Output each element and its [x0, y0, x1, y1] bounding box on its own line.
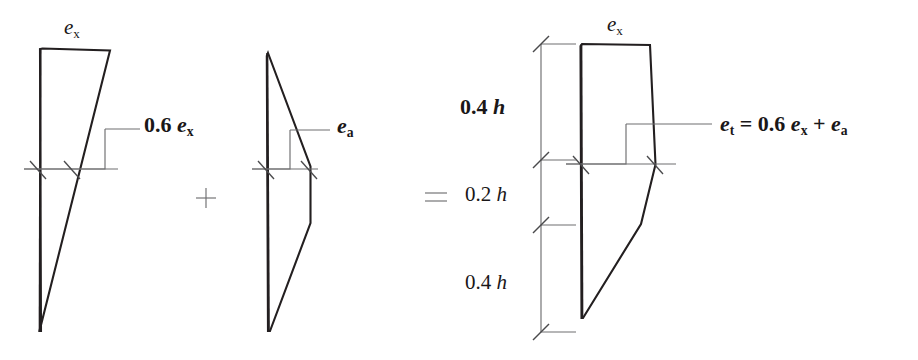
result-lhs-sub: t [730, 123, 735, 138]
dimension-label-2-number: 0.4 [465, 270, 497, 294]
left-value-prefix: 0.6 [144, 112, 177, 137]
dimension-label-1: 0.2 h [465, 184, 507, 205]
dimension-label-1-number: 0.2 [465, 182, 497, 206]
result-equals-text: = 0.6 [734, 111, 791, 136]
dimension-label-0-number: 0.4 [460, 94, 493, 119]
dimension-chain-group [533, 36, 576, 340]
result-term2-sub: a [841, 123, 848, 138]
dimension-label-0: 0.4 h [460, 96, 505, 118]
right-top-label: ex [607, 14, 623, 35]
right-shape-outline [581, 44, 656, 318]
right-result-label: et = 0.6 ex + ea [720, 113, 848, 135]
operator-equals-group [425, 193, 447, 201]
left-vertical-edge [40, 49, 41, 332]
result-plus-text: + [807, 111, 831, 136]
result-term1-symbol: e [791, 111, 801, 136]
result-term2-symbol: e [831, 111, 841, 136]
left-leader-bracket [24, 129, 105, 169]
right-top-label-sub: x [616, 23, 623, 38]
left-value-label: 0.6 ex [144, 114, 194, 136]
right-panel-group [566, 44, 712, 318]
right-top-label-symbol: e [607, 12, 616, 36]
left-panel-group [24, 49, 140, 332]
left-value-symbol: e [177, 112, 187, 137]
middle-value-label: ea [337, 115, 354, 137]
left-top-label-symbol: e [64, 15, 73, 39]
result-lhs-symbol: e [720, 111, 730, 136]
middle-leader-bracket [252, 130, 290, 169]
middle-tick-origin [258, 161, 274, 179]
right-vertical-edge [581, 45, 582, 319]
left-top-label-sub: x [73, 26, 80, 41]
left-tick-ordinate [64, 161, 80, 179]
left-top-label: ex [64, 17, 80, 38]
dimension-label-1-symbol: h [497, 182, 508, 206]
dimension-label-0-symbol: h [493, 94, 505, 119]
left-value-sub: x [187, 124, 194, 139]
diagram-canvas: ex 0.6 ex ea ex et = 0.6 ex + ea 0.4 h 0… [0, 0, 918, 360]
left-shape-outline [40, 49, 111, 332]
middle-value-symbol: e [337, 113, 347, 138]
middle-value-sub: a [347, 125, 354, 140]
middle-shape-outline [267, 53, 311, 331]
result-term1-sub: x [801, 123, 808, 138]
left-tick-origin [30, 161, 46, 179]
operator-plus-group [196, 188, 216, 208]
dimension-label-2-symbol: h [497, 270, 508, 294]
dimension-label-2: 0.4 h [465, 272, 507, 293]
middle-panel-group [252, 53, 330, 331]
middle-vertical-edge [267, 53, 269, 331]
figure-svg [0, 0, 918, 360]
